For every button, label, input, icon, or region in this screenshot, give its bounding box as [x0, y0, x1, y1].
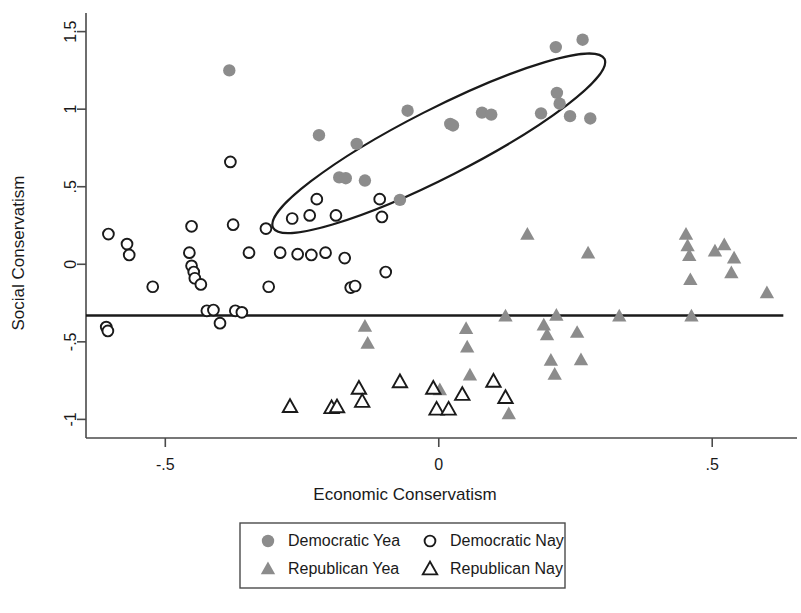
- y-axis-title: Social Conservatism: [9, 176, 28, 331]
- legend-marker-open-circle: [425, 536, 436, 547]
- data-point: [228, 219, 239, 230]
- data-point: [124, 250, 135, 261]
- data-point: [331, 210, 342, 221]
- data-point: [374, 194, 385, 205]
- data-point: [564, 110, 576, 122]
- legend-label: Democratic Nay: [450, 532, 564, 549]
- data-point: [306, 250, 317, 261]
- data-point: [376, 212, 387, 223]
- data-point: [304, 210, 315, 221]
- data-point: [186, 221, 197, 232]
- legend-label: Republican Yea: [288, 560, 399, 577]
- data-point: [551, 87, 563, 99]
- data-point: [195, 279, 206, 290]
- data-point: [351, 138, 363, 150]
- data-point: [447, 119, 459, 131]
- data-point: [263, 281, 274, 292]
- data-point: [359, 174, 371, 186]
- y-tick-label: -1: [62, 412, 79, 426]
- data-point: [350, 281, 361, 292]
- data-point: [584, 112, 596, 124]
- data-point: [313, 129, 325, 141]
- legend-label: Republican Nay: [450, 560, 563, 577]
- data-point: [215, 318, 226, 329]
- y-tick-label: 1: [62, 105, 79, 114]
- data-point: [550, 41, 562, 53]
- data-point: [122, 239, 133, 250]
- data-point: [225, 157, 236, 168]
- data-point: [485, 108, 497, 120]
- data-point: [184, 247, 195, 258]
- data-point: [535, 107, 547, 119]
- data-point: [261, 223, 272, 234]
- data-point: [380, 267, 391, 278]
- data-point: [320, 247, 331, 258]
- y-tick-label: -.5: [62, 332, 79, 351]
- data-point: [223, 64, 235, 76]
- figure-background: [0, 0, 801, 613]
- data-point: [340, 172, 352, 184]
- x-tick-label: -.5: [156, 456, 175, 473]
- data-point: [102, 326, 113, 337]
- data-point: [275, 247, 286, 258]
- data-point: [244, 247, 255, 258]
- legend-marker-filled-circle: [262, 535, 274, 547]
- data-point: [401, 105, 413, 117]
- data-point: [147, 281, 158, 292]
- data-point: [339, 253, 350, 264]
- data-point: [394, 194, 406, 206]
- x-tick-label: 0: [434, 456, 443, 473]
- data-point: [553, 98, 565, 110]
- data-point: [103, 229, 114, 240]
- y-tick-label: 1.5: [62, 20, 79, 42]
- data-point: [287, 213, 298, 224]
- data-point: [236, 307, 247, 318]
- data-point: [311, 194, 322, 205]
- data-point: [292, 249, 303, 260]
- scatter-plot-figure: -.50.5 -1-.50.511.5 Economic Conservatis…: [0, 0, 801, 613]
- legend: Democratic YeaDemocratic NayRepublican Y…: [240, 523, 565, 588]
- x-tick-label: .5: [706, 456, 719, 473]
- data-point: [208, 305, 219, 316]
- x-axis-title: Economic Conservatism: [313, 485, 496, 504]
- y-tick-label: 0: [62, 260, 79, 269]
- y-tick-label: .5: [62, 180, 79, 193]
- data-point: [576, 33, 588, 45]
- legend-label: Democratic Yea: [288, 532, 400, 549]
